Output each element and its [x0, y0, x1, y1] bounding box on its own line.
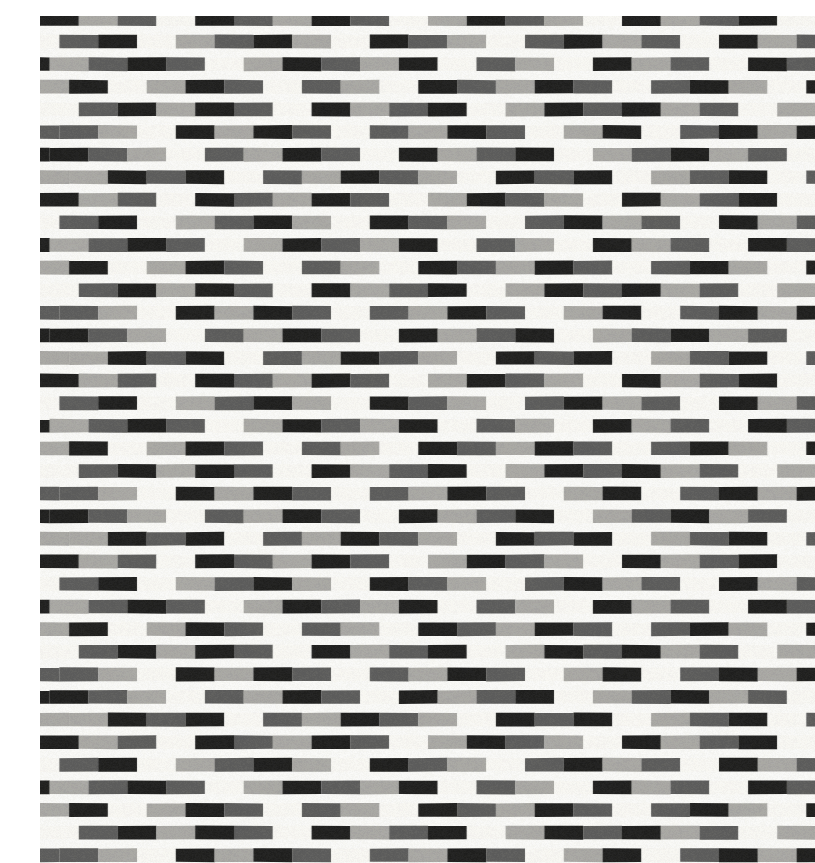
optical-illusion-pattern-canvas	[40, 16, 815, 863]
illusion-figure: Rows of trapezoidal blocks in four gray …	[40, 16, 815, 863]
